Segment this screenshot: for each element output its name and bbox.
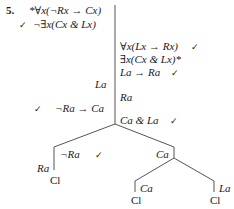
check-icon: ✓: [171, 67, 179, 79]
right-line-1: ∀x(Lx → Rx): [120, 40, 178, 52]
right-right-child-closed: Cl: [210, 194, 220, 206]
right-line-5: Ca & La: [120, 114, 159, 126]
left-la: La: [95, 78, 107, 90]
right-left-child-node: Ca: [140, 182, 153, 194]
left-neg-ra-to-ca: ¬Ra → Ca: [55, 102, 104, 114]
check-icon: ✓: [191, 41, 199, 53]
check-icon: ✓: [170, 115, 178, 127]
check-icon: ✓: [19, 19, 27, 31]
left-branch-side-label: Ra: [37, 162, 49, 174]
check-icon: ✓: [34, 103, 42, 115]
check-icon: ✓: [95, 149, 103, 161]
right-line-3: La → Ra: [120, 66, 160, 78]
truth-tree-diagram: 5. *∀x(¬Rx → Cx) ✓ ¬∃x(Cx & Lx) ∀x(Lx → …: [0, 0, 234, 209]
premise-1: *∀x(¬Rx → Cx): [29, 4, 101, 16]
problem-number: 5.: [6, 4, 14, 16]
right-line-2: ∃x(Cx & Lx)*: [120, 53, 181, 65]
left-branch-node: ¬Ra: [60, 148, 80, 160]
right-branch-node: Ca: [156, 148, 169, 160]
premise-2: ¬∃x(Cx & Lx): [33, 18, 96, 30]
right-left-child-closed: Cl: [131, 194, 141, 206]
left-branch-closed: Cl: [50, 174, 60, 186]
right-right-child-node: La: [219, 182, 231, 194]
right-line-4: Ra: [120, 91, 132, 103]
